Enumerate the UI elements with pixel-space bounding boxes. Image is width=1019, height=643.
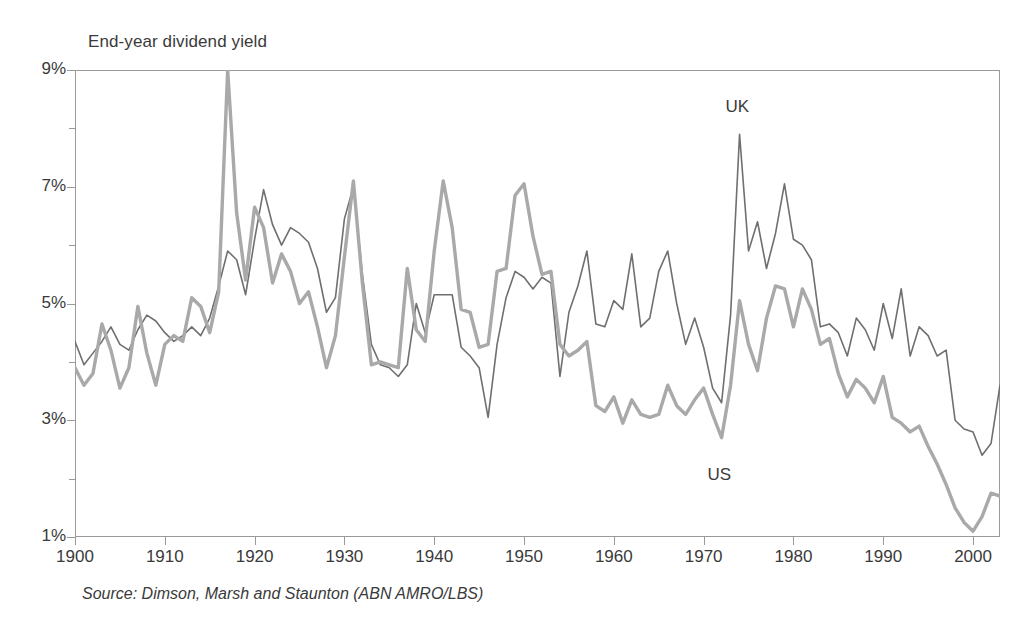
series-line-us bbox=[75, 70, 1000, 531]
y-axis-tick-major bbox=[67, 420, 75, 421]
y-axis-tick-major bbox=[67, 70, 75, 71]
x-axis-tick-label: 1940 bbox=[399, 547, 469, 567]
x-axis-tick-major bbox=[793, 537, 794, 545]
x-axis-tick-major bbox=[434, 537, 435, 545]
x-axis-tick-major bbox=[75, 537, 76, 545]
x-axis-tick-label: 1970 bbox=[669, 547, 739, 567]
chart-plot-svg bbox=[75, 70, 1000, 537]
x-axis-tick-label: 2000 bbox=[938, 547, 1008, 567]
y-axis-tick-label: 5% bbox=[18, 293, 66, 313]
x-axis-tick-major bbox=[344, 537, 345, 545]
x-axis-tick-label: 1960 bbox=[579, 547, 649, 567]
x-axis-tick-major bbox=[614, 537, 615, 545]
y-axis-tick-label: 1% bbox=[18, 526, 66, 546]
x-axis-tick-major bbox=[255, 537, 256, 545]
y-axis-tick-major bbox=[67, 304, 75, 305]
y-axis-tick-label: 9% bbox=[18, 59, 66, 79]
x-axis-tick-label: 1920 bbox=[220, 547, 290, 567]
x-axis-tick-major bbox=[883, 537, 884, 545]
series-label-us: US bbox=[708, 465, 732, 485]
x-axis-tick-major bbox=[973, 537, 974, 545]
x-axis-tick-label: 1990 bbox=[848, 547, 918, 567]
series-label-uk: UK bbox=[726, 97, 750, 117]
y-axis-tick-label: 7% bbox=[18, 176, 66, 196]
y-axis-tick-label: 3% bbox=[18, 409, 66, 429]
x-axis-tick-major bbox=[704, 537, 705, 545]
y-axis-tick-major bbox=[67, 537, 75, 538]
x-axis-tick-label: 1950 bbox=[489, 547, 559, 567]
x-axis-tick-label: 1910 bbox=[130, 547, 200, 567]
y-axis-tick-major bbox=[67, 187, 75, 188]
chart-title: End-year dividend yield bbox=[88, 32, 267, 52]
y-axis-tick-minor bbox=[69, 128, 75, 129]
y-axis-tick-minor bbox=[69, 245, 75, 246]
source-caption: Source: Dimson, Marsh and Staunton (ABN … bbox=[82, 585, 483, 603]
series-line-uk bbox=[75, 134, 1000, 455]
x-axis-tick-label: 1980 bbox=[758, 547, 828, 567]
y-axis-tick-minor bbox=[69, 479, 75, 480]
x-axis-tick-major bbox=[165, 537, 166, 545]
chart-figure: End-year dividend yield 9%7%5%3%1% 19001… bbox=[0, 0, 1019, 643]
series-layer bbox=[75, 70, 1000, 531]
x-axis-tick-label: 1900 bbox=[40, 547, 110, 567]
x-axis-tick-major bbox=[524, 537, 525, 545]
y-axis-tick-minor bbox=[69, 362, 75, 363]
x-axis-tick-label: 1930 bbox=[309, 547, 379, 567]
